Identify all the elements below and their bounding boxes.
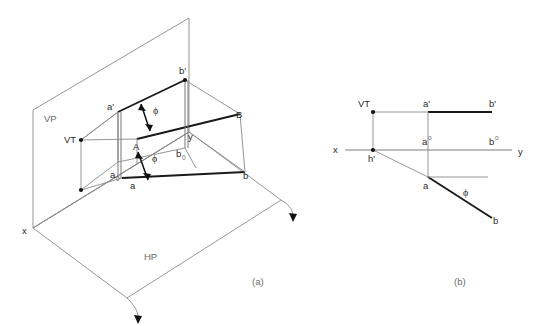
point-b0-label: b xyxy=(176,148,181,159)
vt-point-dot-ortho xyxy=(371,110,375,114)
vt-level-to-a0 xyxy=(81,112,118,140)
axis-x-label-ortho: x xyxy=(333,144,338,155)
vt-trace-label-ortho: VT xyxy=(358,98,370,109)
point-b0-label-group: b 0 xyxy=(176,148,186,161)
axis-y-label-ortho: y xyxy=(518,146,523,157)
line-a-top-b-top xyxy=(122,172,245,178)
point-b0-label-group-ortho: b o xyxy=(489,134,499,147)
hp-rotation-arrowhead-right xyxy=(289,213,297,222)
h-trace-label-ortho: h' xyxy=(368,153,375,164)
vt-trace-label: VT xyxy=(64,134,76,145)
point-a0-sub: 0 xyxy=(116,175,120,182)
b0-to-b-vertical xyxy=(185,148,196,168)
caption-a: (a) xyxy=(252,276,264,287)
technical-drawing-svg: VP HP VT x y a' b' A B a b a 0 b 0 ϕ ϕ (… xyxy=(0,0,543,326)
point-a-front-label: a' xyxy=(107,101,114,112)
point-b0-sub: 0 xyxy=(182,154,186,161)
angle-phi-upper-label: ϕ xyxy=(153,105,158,116)
orthographic-view-group: VT h' x y a' b' a o b o a b ϕ (b) xyxy=(333,98,523,287)
figure-root: VP HP VT x y a' b' A B a b a 0 b 0 ϕ ϕ (… xyxy=(0,0,543,326)
point-a-top-label: a xyxy=(130,180,136,191)
y-corner-to-b-line xyxy=(189,132,245,172)
axis-x-label-pictorial: x xyxy=(22,225,27,236)
angle-phi-label-ortho: ϕ xyxy=(463,187,468,198)
vt-point-dot xyxy=(79,138,83,142)
point-B-label: B xyxy=(236,109,242,120)
point-b-front-label: b' xyxy=(179,65,186,76)
b-front-to-B-line xyxy=(185,80,240,114)
axis-y-label-pictorial: y xyxy=(188,131,193,142)
xy-axis-line-pictorial xyxy=(33,132,189,228)
angle-phi-lower-label: ϕ xyxy=(152,153,157,164)
point-a0-label-group-ortho: a o xyxy=(422,134,432,147)
line-a-top-b-top-ortho xyxy=(428,177,492,218)
hp-plane-label: HP xyxy=(144,251,157,262)
point-b0-sup-ortho: o xyxy=(495,134,499,141)
h-to-a-top-line-ortho xyxy=(373,150,428,177)
point-b-top-label-ortho: b xyxy=(493,215,498,226)
B-to-b-vertical xyxy=(240,114,245,172)
pictorial-view-group: VP HP VT x y a' b' A B a b a 0 b 0 ϕ ϕ (… xyxy=(22,18,297,324)
point-b0-label-ortho: b xyxy=(489,136,494,147)
point-b-top-label: b xyxy=(243,170,248,181)
point-a0-sup-ortho: o xyxy=(428,134,432,141)
line-a-front-b-front xyxy=(118,80,185,112)
caption-b: (b) xyxy=(454,276,466,287)
h-point-dot-ortho xyxy=(371,148,375,152)
hp-rotation-arrowhead xyxy=(134,315,142,324)
point-a-front-label-ortho: a' xyxy=(423,98,430,109)
point-A-label: A xyxy=(133,141,140,152)
point-a-top-label-ortho: a xyxy=(423,180,429,191)
b-front-point-dot xyxy=(183,78,187,82)
point-b-front-label-ortho: b' xyxy=(489,98,496,109)
vt-to-A-line xyxy=(81,139,137,140)
base-point-dot xyxy=(79,188,83,192)
vp-plane-label: VP xyxy=(44,113,57,124)
